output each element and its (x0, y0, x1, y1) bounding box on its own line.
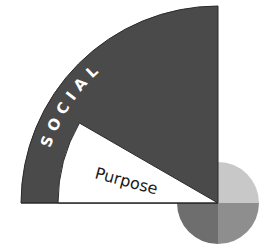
circle-quadrant-top-right (218, 162, 259, 203)
social-purpose-diagram: SOCIAL Purpose (0, 0, 267, 246)
circle-quadrant-bottom-right (218, 203, 259, 244)
circle-quadrant-bottom-left (177, 203, 218, 244)
